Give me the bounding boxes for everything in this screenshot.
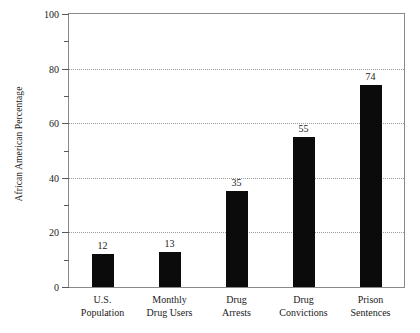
bar: [293, 137, 315, 287]
x-axis-category-line: Convictions: [279, 307, 327, 320]
y-axis-tick: [62, 232, 69, 233]
y-axis-minor-tick: [64, 151, 69, 152]
x-axis-category-label: DrugConvictions: [279, 294, 327, 319]
y-axis-tick: [62, 287, 69, 288]
x-axis-category-label: U.S.Population: [81, 294, 124, 319]
bar: [360, 85, 382, 287]
y-axis-tick-label: 100: [44, 9, 59, 20]
gridline: [69, 69, 404, 70]
plot-area: 0204060801001213355574: [68, 13, 405, 288]
bar-value-label: 74: [366, 71, 376, 82]
x-axis-category-label: PrisonSentences: [351, 294, 391, 319]
x-axis-category-line: Prison: [351, 294, 391, 307]
x-axis-category-label: MonthlyDrug Users: [147, 294, 193, 319]
bar-value-label: 35: [232, 177, 242, 188]
x-axis-category-line: Drug Users: [147, 307, 193, 320]
bar-value-label: 12: [98, 240, 108, 251]
y-axis-minor-tick: [64, 96, 69, 97]
y-axis-minor-tick: [64, 260, 69, 261]
x-axis-category-line: Sentences: [351, 307, 391, 320]
y-axis-title-text: African American Percentage: [14, 86, 24, 201]
x-axis-category-line: Population: [81, 307, 124, 320]
x-axis-category-line: Arrests: [222, 307, 251, 320]
y-axis-tick: [62, 14, 69, 15]
bar: [159, 252, 181, 287]
x-axis-category-line: U.S.: [81, 294, 124, 307]
y-axis-tick: [62, 178, 69, 179]
bar: [226, 191, 248, 287]
bar-value-label: 55: [299, 123, 309, 134]
y-axis-tick-label: 20: [49, 227, 59, 238]
x-axis-category-label: DrugArrests: [222, 294, 251, 319]
y-axis-minor-tick: [64, 205, 69, 206]
bar-chart-figure: African American Percentage 020406080100…: [0, 0, 420, 333]
x-axis-category-line: Drug: [222, 294, 251, 307]
x-axis-category-line: Drug: [279, 294, 327, 307]
y-axis-tick-label: 60: [49, 118, 59, 129]
y-axis-tick-label: 0: [54, 282, 59, 293]
y-axis-tick-label: 40: [49, 172, 59, 183]
y-axis-title: African American Percentage: [10, 0, 28, 288]
y-axis-tick: [62, 69, 69, 70]
bar-value-label: 13: [165, 238, 175, 249]
y-axis-tick: [62, 123, 69, 124]
plot-inner: 0204060801001213355574: [69, 14, 404, 287]
y-axis-tick-label: 80: [49, 63, 59, 74]
bar: [92, 254, 114, 287]
y-axis-minor-tick: [64, 41, 69, 42]
x-axis-category-line: Monthly: [147, 294, 193, 307]
gridline: [69, 123, 404, 124]
